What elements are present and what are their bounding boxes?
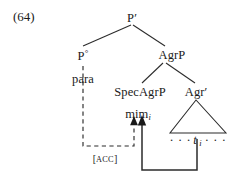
node-mim-subscript: i <box>148 112 150 122</box>
trace-trailing-dots: · · · <box>202 133 227 147</box>
node-p-head-label: P <box>78 49 85 63</box>
branch-agrp-to-spec <box>142 63 163 83</box>
node-p-head: P° <box>78 49 89 62</box>
node-mim-terminal: mimi <box>125 108 151 121</box>
node-agr-bar: Agr′ <box>185 86 207 99</box>
constituent-triangle <box>170 100 226 133</box>
node-agrp: AgrP <box>159 49 186 62</box>
node-p-bar: P′ <box>127 12 137 25</box>
node-agr-bar-prime: ′ <box>205 85 208 99</box>
case-feature-label: [ACC] <box>93 154 118 164</box>
syntax-tree-figure: (64) P′ P° AgrP para SpecAgrP Agr′ mimi <box>0 0 247 181</box>
trace-label: t <box>191 133 199 147</box>
case-bracket-close: ] <box>114 153 117 164</box>
node-para-terminal: para <box>72 73 94 86</box>
branch-root-to-head-p <box>83 25 131 46</box>
node-p-bar-label: P <box>127 11 134 25</box>
trace-leading-dots: · · · <box>170 133 192 147</box>
trace-row: · · ·ti· · · <box>170 134 227 147</box>
node-spec-agrp: SpecAgrP <box>114 86 166 99</box>
node-p-head-degree: ° <box>85 48 89 58</box>
branch-root-to-agrp <box>133 25 165 46</box>
movement-solid-path <box>142 125 197 170</box>
node-mim-label: mim <box>125 107 148 121</box>
node-agr-bar-label: Agr <box>185 85 205 99</box>
case-feature-text: ACC <box>96 155 114 164</box>
branch-agrp-to-agrbar <box>166 63 195 83</box>
node-p-bar-prime: ′ <box>134 11 137 25</box>
